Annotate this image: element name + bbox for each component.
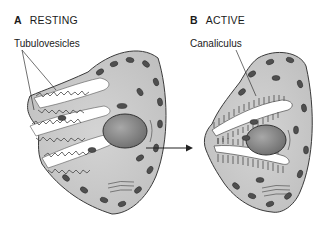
diagram-canvas xyxy=(0,0,326,230)
resting-cell xyxy=(22,50,166,214)
active-nucleus xyxy=(246,125,286,155)
resting-nucleus xyxy=(103,114,147,148)
active-cell xyxy=(204,50,312,212)
